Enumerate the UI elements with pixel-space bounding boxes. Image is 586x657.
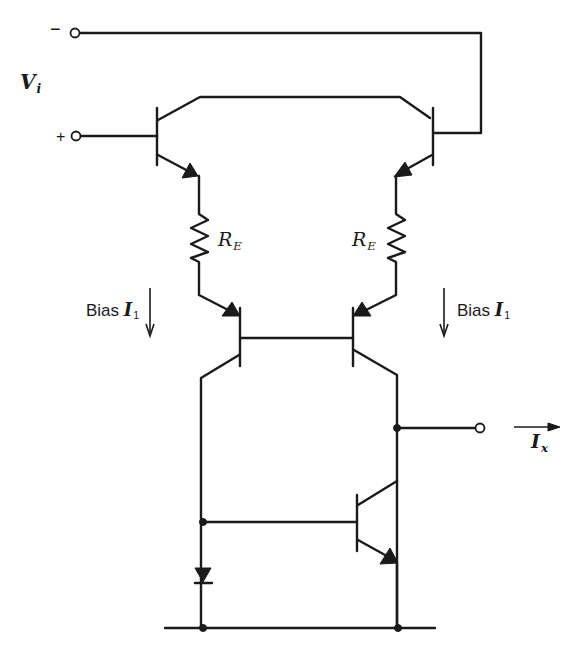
plus-terminal <box>72 132 81 141</box>
circuit-schematic <box>0 0 586 657</box>
re-left-label: RE <box>218 230 242 249</box>
vi-label: Vi <box>20 72 41 92</box>
ground-rail <box>165 625 435 632</box>
re-left-sub: E <box>233 239 242 253</box>
re-right-sub: E <box>367 239 376 253</box>
bias-left-label: Bias I1 <box>86 301 139 319</box>
transistor-q4 <box>353 302 397 628</box>
bias-left-text: Bias <box>86 301 124 320</box>
transistor-q3 <box>201 302 353 628</box>
bias-arrow-left <box>146 288 154 336</box>
transistor-q2 <box>394 108 433 210</box>
re-right-main: R <box>352 228 366 250</box>
ix-main: I <box>531 430 540 452</box>
bias-right-i: I <box>495 299 503 320</box>
transistor-q5 <box>200 481 399 628</box>
output-node <box>394 424 485 433</box>
re-right-label: RE <box>352 230 376 249</box>
vi-main: V <box>20 70 36 94</box>
base-node <box>200 519 207 526</box>
bias-right-label: Bias I1 <box>457 301 510 319</box>
output-terminal <box>476 424 485 433</box>
diode-d1 <box>195 568 212 583</box>
minus-input-wire <box>80 33 481 133</box>
bias-right-sub: 1 <box>504 309 510 321</box>
resistor-re-right <box>362 210 405 312</box>
minus-terminal <box>71 29 80 38</box>
bias-right-text: Bias <box>457 301 495 320</box>
bias-left-sub: 1 <box>133 309 139 321</box>
vi-sub: i <box>37 81 42 96</box>
bias-arrow-right <box>440 288 448 336</box>
transistor-q1 <box>80 97 430 210</box>
q1-emitter-arrow <box>182 163 198 178</box>
bias-left-i: I <box>124 299 132 320</box>
minus-sign-label: − <box>50 20 61 38</box>
ix-label: Ix <box>531 432 548 451</box>
plus-sign-label: + <box>56 129 65 145</box>
q2-emitter-arrow <box>394 162 412 177</box>
re-left-main: R <box>218 228 232 250</box>
ix-sub: x <box>541 441 548 455</box>
resistor-re-left <box>191 210 232 312</box>
q5-emitter-arrow <box>380 548 398 564</box>
